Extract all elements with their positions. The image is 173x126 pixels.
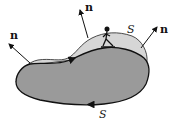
base-region bbox=[16, 47, 149, 104]
normal-label-top: n bbox=[85, 1, 93, 14]
stokes-diagram: n n n S S bbox=[0, 0, 173, 126]
boundary-label: S bbox=[99, 108, 107, 121]
surface-label: S bbox=[127, 23, 135, 36]
normal-label-right: n bbox=[160, 23, 168, 36]
normal-vector-right bbox=[141, 27, 157, 48]
normal-label-left: n bbox=[10, 29, 18, 42]
normal-vector-top bbox=[80, 10, 88, 38]
normal-vector-left bbox=[9, 44, 30, 63]
